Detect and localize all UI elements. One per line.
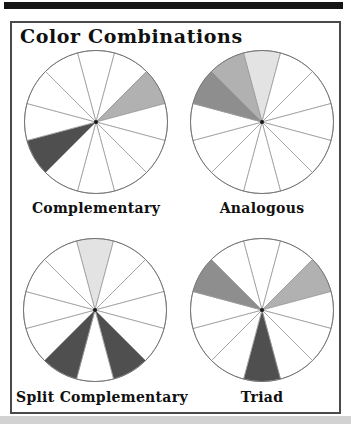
wheel-center-dot: [94, 120, 98, 124]
triad-color-wheel: [187, 235, 337, 385]
analogous-color-wheel: [187, 47, 337, 197]
analogous-label: Analogous: [187, 200, 337, 216]
bottom-gray-strip: [0, 416, 351, 424]
split-complementary-color-wheel: [20, 235, 170, 385]
page-title: Color Combinations: [20, 25, 243, 47]
split-complementary-label: Split Complementary: [16, 389, 176, 405]
color-combinations-diagram: Color Combinations Complementary Analogo…: [0, 0, 351, 424]
triad-label: Triad: [187, 389, 337, 405]
complementary-color-wheel: [21, 47, 171, 197]
top-accent-bar: [4, 2, 343, 9]
wheel-center-dot: [93, 308, 97, 312]
wheel-center-dot: [260, 120, 264, 124]
complementary-label: Complementary: [21, 200, 171, 216]
wheel-center-dot: [260, 308, 264, 312]
